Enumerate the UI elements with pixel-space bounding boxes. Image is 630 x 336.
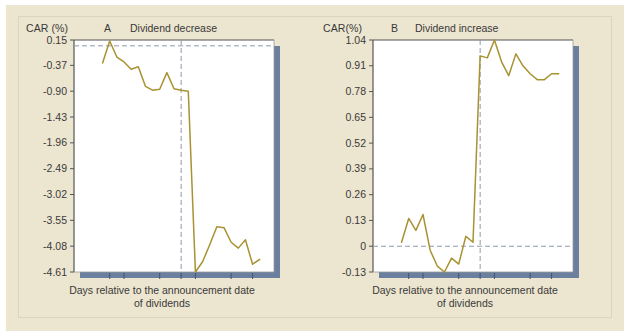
y-tick-label: 0	[360, 240, 366, 252]
y-tick-label: -3.02	[43, 188, 67, 200]
y-tick-label: -1.43	[43, 111, 67, 123]
y-tick-label: 0.13	[346, 214, 367, 226]
y-tick-label: -4.61	[43, 266, 67, 278]
y-tick-label: -4.08	[43, 240, 67, 252]
y-tick-label: 0.65	[346, 111, 367, 123]
y-tick-label: -1.96	[43, 136, 67, 148]
figure-root: CAR (%) A Dividend decrease 0.15-0.37-0.…	[0, 0, 630, 336]
chart-panel-a: CAR (%) A Dividend decrease 0.15-0.37-0.…	[12, 16, 312, 320]
y-tick-label: -0.90	[43, 85, 67, 97]
y-tick-label: -3.55	[43, 214, 67, 226]
y-tick-label: 0.39	[346, 162, 367, 174]
panel-a-x-axis-title-line1: Days relative to the announcement date	[12, 284, 312, 296]
y-tick-label: -2.49	[43, 162, 67, 174]
y-tick-label: -0.37	[43, 59, 67, 71]
y-tick-label: 0.15	[47, 34, 68, 46]
y-tick-label: 0.52	[346, 137, 367, 149]
y-tick-label: 0.78	[346, 85, 367, 97]
panel-b-x-axis-title-line2: of dividends	[315, 297, 615, 309]
plot-background	[74, 40, 274, 272]
y-tick-label: -0.13	[342, 266, 366, 278]
y-tick-label: 0.26	[346, 188, 367, 200]
y-tick-label: 0.91	[346, 59, 367, 71]
chart-panel-b: CAR(%) B Dividend increase 1.040.910.780…	[315, 16, 615, 320]
y-tick-label: 1.04	[346, 34, 367, 46]
panel-a-plot: 0.15-0.37-0.90-1.43-1.96-2.49-3.02-3.55-…	[12, 16, 312, 281]
panel-b-plot: 1.040.910.780.650.520.390.260.130-0.13-1…	[315, 16, 615, 281]
panel-b-x-axis-title-line1: Days relative to the announcement date	[315, 284, 615, 296]
panel-a-x-axis-title-line2: of dividends	[12, 297, 312, 309]
